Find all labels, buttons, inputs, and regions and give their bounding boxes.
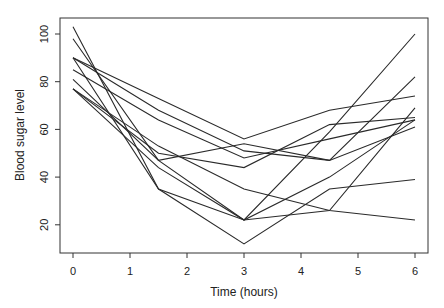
y-tick-label: 20 — [38, 219, 50, 231]
x-tick-label: 4 — [298, 265, 304, 277]
plot-box — [60, 18, 428, 253]
x-axis-title: Time (hours) — [210, 285, 278, 299]
x-tick-label: 6 — [412, 265, 418, 277]
series-line-5 — [73, 70, 415, 158]
y-tick-label: 80 — [38, 76, 50, 88]
chart: 0123456 20406080100 Time (hours) Blood s… — [0, 0, 444, 308]
series-line-10 — [73, 89, 415, 220]
y-tick-label: 100 — [38, 25, 50, 43]
y-tick-label: 40 — [38, 171, 50, 183]
x-tick-label: 2 — [184, 265, 190, 277]
y-axis-title: Blood sugar level — [13, 89, 27, 181]
x-tick-label: 1 — [127, 265, 133, 277]
x-tick-label: 3 — [241, 265, 247, 277]
series-line-6 — [73, 79, 415, 160]
series-line-4 — [73, 58, 415, 161]
x-axis: 0123456 — [70, 253, 418, 277]
x-tick-label: 5 — [355, 265, 361, 277]
x-tick-label: 0 — [70, 265, 76, 277]
series-lines — [73, 27, 415, 244]
y-tick-label: 60 — [38, 123, 50, 135]
y-axis: 20406080100 — [38, 25, 60, 231]
